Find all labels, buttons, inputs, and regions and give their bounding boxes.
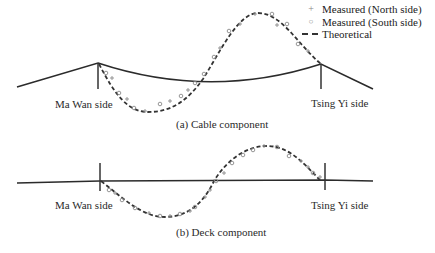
cable-measured-south — [104, 12, 300, 110]
deck-left-label: Ma Wan side — [55, 200, 113, 211]
dashed-line-icon — [302, 33, 318, 35]
circle-marker-icon: ○ — [300, 16, 322, 29]
cable-theoretical-curve — [99, 13, 321, 112]
legend-label: Measured (North side) — [322, 3, 422, 16]
legend-item-north: + Measured (North side) — [300, 3, 422, 16]
cable-left-label: Ma Wan side — [55, 99, 113, 110]
cable-measured-north — [110, 12, 310, 113]
legend-item-theoretical: Theoretical — [300, 28, 422, 41]
legend-label: Theoretical — [322, 28, 372, 41]
deck-caption: (b) Deck component — [176, 227, 266, 238]
legend: + Measured (North side) ○ Measured (Sout… — [300, 3, 422, 41]
legend-label: Measured (South side) — [322, 16, 422, 29]
cable-caption: (a) Cable component — [176, 119, 268, 130]
deck-structure-line — [17, 180, 373, 183]
deck-right-label: Tsing Yi side — [311, 200, 369, 211]
cable-right-label: Tsing Yi side — [311, 98, 369, 109]
legend-item-south: ○ Measured (South side) — [300, 16, 422, 29]
plus-marker-icon: + — [300, 3, 322, 16]
